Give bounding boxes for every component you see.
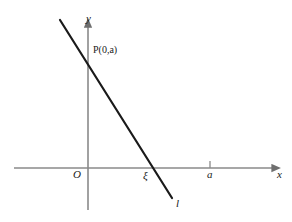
tick-a-label: a <box>207 169 213 180</box>
figure-canvas <box>0 0 292 222</box>
x-intercept-xi-label: ξ <box>143 170 148 181</box>
x-axis-label: x <box>277 169 282 180</box>
coordinate-figure: y x O P(0,a) ξ a l <box>0 0 292 222</box>
point-p-label: P(0,a) <box>93 45 117 55</box>
line-l-label: l <box>176 198 179 209</box>
origin-label: O <box>73 169 81 180</box>
y-axis-label: y <box>86 13 91 24</box>
